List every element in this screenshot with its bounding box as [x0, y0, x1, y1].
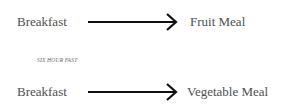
- fast-note: SIX HOUR FAST: [37, 57, 77, 63]
- row2-to-label: Vegetable Meal: [187, 85, 268, 99]
- row2-from-label: Breakfast: [17, 85, 67, 99]
- right-arrow-icon: [87, 82, 179, 102]
- row1-from-label: Breakfast: [17, 15, 67, 29]
- right-arrow-icon: [87, 12, 179, 32]
- row1-to-label: Fruit Meal: [190, 15, 245, 29]
